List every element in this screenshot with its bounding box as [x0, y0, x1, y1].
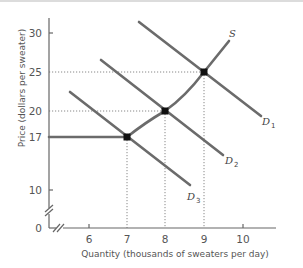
x-tick-9: 9: [201, 233, 208, 245]
svg-text:3: 3: [196, 197, 200, 205]
d3-label: D 3: [186, 191, 200, 205]
svg-text:D: D: [186, 191, 195, 202]
supply-demand-chart: 30 25 20 17 10 0 6 7 8 9 10 Quantity (th…: [0, 0, 303, 268]
y-tick-25: 25: [29, 66, 42, 78]
d1-label: D 1: [261, 116, 275, 130]
svg-text:1: 1: [271, 122, 275, 130]
x-tick-10: 10: [236, 233, 249, 245]
demand-curve-d1: [139, 22, 261, 116]
y-tick-17: 17: [29, 131, 42, 143]
equilibrium-point-8-20: [162, 108, 169, 115]
x-axis-title: Quantity (thousands of sweaters per day): [81, 249, 269, 259]
svg-text:D: D: [224, 155, 233, 166]
equilibrium-point-9-25: [201, 69, 208, 76]
x-tick-6: 6: [86, 233, 93, 245]
y-tick-20: 20: [29, 105, 42, 117]
axes: [45, 18, 276, 232]
y-tick-10: 10: [29, 184, 42, 196]
svg-text:D: D: [261, 116, 270, 127]
guide-lines: [49, 72, 204, 228]
origin-label: 0: [35, 222, 42, 234]
supply-label: S: [229, 28, 236, 39]
y-tick-30: 30: [29, 27, 42, 39]
y-axis-title: Price (dollars per sweater): [17, 29, 27, 148]
svg-text:2: 2: [234, 161, 238, 169]
x-tick-8: 8: [162, 233, 169, 245]
equilibrium-point-7-17: [124, 134, 131, 141]
x-tick-7: 7: [124, 233, 131, 245]
d2-label: D 2: [224, 155, 238, 169]
